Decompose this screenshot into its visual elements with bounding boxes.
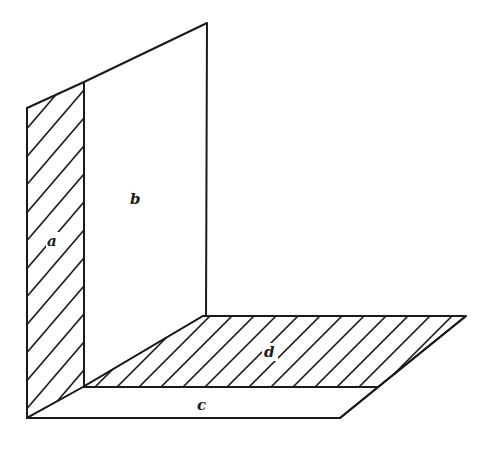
label-b: b — [130, 192, 141, 207]
diagram-drawing — [0, 0, 489, 455]
corner-diagram: a b c d — [0, 0, 489, 455]
label-d: d — [264, 345, 275, 360]
label-a: a — [47, 234, 57, 249]
label-c: c — [197, 398, 206, 413]
